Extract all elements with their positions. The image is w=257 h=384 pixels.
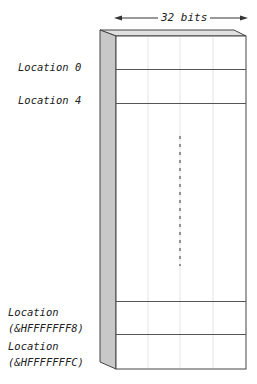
arrow-right-icon — [240, 16, 248, 21]
box-top-face — [100, 30, 246, 36]
box-front-face — [116, 36, 246, 369]
label-location-4: Location 4 — [18, 92, 81, 108]
label-location-fc: Location (&HFFFFFFFC) — [8, 338, 84, 370]
box-side-face — [100, 30, 116, 369]
label-location-0: Location 0 — [18, 59, 81, 75]
arrow-left-icon — [114, 16, 122, 21]
width-label: 32 bits — [158, 11, 210, 25]
label-location-f8: Location (&HFFFFFFF8) — [8, 304, 84, 336]
